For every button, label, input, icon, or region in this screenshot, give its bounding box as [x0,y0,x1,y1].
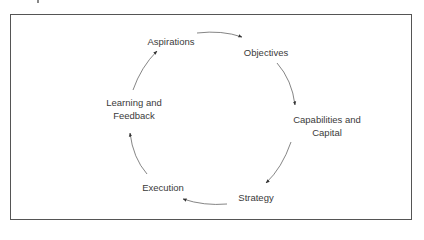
node-label: Aspirations [148,36,195,47]
node-learning-and-feedback: Learning and Feedback [106,96,161,122]
node-label-line2: Capital [293,126,361,139]
node-label: Strategy [238,192,273,203]
node-label-line2: Feedback [106,109,161,122]
arrow-aspirations-to-objectives [197,32,242,37]
arrow-learning-to-aspirations [133,51,157,90]
node-label-line1: Capabilities and [293,113,361,126]
node-capabilities-and-capital: Capabilities and Capital [293,113,361,139]
arrow-strategy-to-execution [183,199,227,204]
arrow-execution-to-learning [130,133,147,174]
node-label: Objectives [244,47,288,58]
node-strategy: Strategy [238,191,273,204]
arrow-objectives-to-capabilities [277,63,295,105]
node-label-line1: Learning and [106,96,161,109]
arrow-capabilities-to-strategy [266,142,291,183]
node-objectives: Objectives [244,46,288,59]
node-aspirations: Aspirations [148,35,195,48]
node-label: Execution [142,182,184,193]
node-execution: Execution [142,181,184,194]
